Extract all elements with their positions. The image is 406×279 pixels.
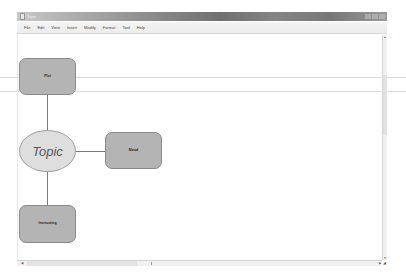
menu-view[interactable]: View: [50, 26, 61, 30]
resize-grip-icon[interactable]: ◢: [382, 260, 387, 266]
node-mood[interactable]: Mood: [105, 132, 162, 169]
node-topic-label: Topic: [32, 145, 63, 158]
node-instructing-label: Instructing: [38, 222, 56, 226]
close-icon[interactable]: [379, 14, 385, 19]
menu-modify[interactable]: Modify: [83, 26, 97, 30]
horizontal-scroll-thumb[interactable]: [27, 261, 137, 266]
menu-format[interactable]: Format: [102, 26, 117, 30]
horizontal-scrollbar[interactable]: ◀ ▶: [17, 260, 382, 266]
node-topic[interactable]: Topic: [19, 130, 76, 172]
scroll-position-marker: [151, 262, 152, 265]
app-icon: [20, 13, 25, 20]
node-mood-label: Mood: [129, 149, 138, 153]
connector-topic-mood: [76, 151, 105, 152]
connector-topic-plot: [47, 95, 48, 130]
menu-file[interactable]: File: [23, 26, 31, 30]
scroll-left-icon[interactable]: ◀: [19, 261, 24, 266]
application-window: Topic File Edit View Insert Modify Forma…: [0, 0, 406, 279]
vertical-scroll-thumb[interactable]: [383, 75, 387, 135]
menu-help[interactable]: Help: [136, 26, 146, 30]
window-controls: [365, 14, 385, 19]
menu-bar: File Edit View Insert Modify Format Tool…: [17, 22, 387, 34]
window-title: Topic: [27, 15, 36, 19]
menu-tool[interactable]: Tool: [121, 26, 130, 30]
connector-topic-instructing: [47, 172, 48, 205]
scroll-up-icon[interactable]: ▲: [383, 35, 387, 39]
vertical-scrollbar[interactable]: ▲ ▼: [382, 35, 387, 260]
title-bar[interactable]: Topic: [17, 12, 387, 21]
menu-insert[interactable]: Insert: [66, 26, 78, 30]
minimize-icon[interactable]: [365, 14, 371, 19]
menu-edit[interactable]: Edit: [36, 26, 45, 30]
maximize-icon[interactable]: [372, 14, 378, 19]
node-plot-label: Plot: [44, 75, 51, 79]
node-instructing[interactable]: Instructing: [19, 205, 76, 243]
node-plot[interactable]: Plot: [19, 58, 76, 95]
